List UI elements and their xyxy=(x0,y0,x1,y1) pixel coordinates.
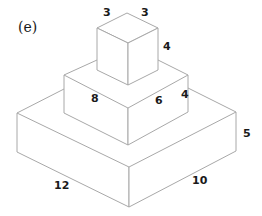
middle-box-left-face xyxy=(64,75,128,145)
middle-box-right-face xyxy=(128,75,188,145)
top-cube-right-dim: 3 xyxy=(141,6,149,19)
stacked-prisms-diagram: (e) 3 3 4 8 6 4 12 10 5 xyxy=(0,0,262,216)
top-cube-height-dim: 4 xyxy=(163,40,171,53)
bottom-box-back-left-edge xyxy=(17,89,64,113)
bottom-box xyxy=(17,88,236,207)
top-cube-left-dim: 3 xyxy=(103,6,111,19)
middle-box-back-left-edge xyxy=(64,60,97,75)
panel-label: (e) xyxy=(18,19,37,35)
middle-box-back-right-edge xyxy=(158,60,188,75)
middle-box-height-dim: 4 xyxy=(181,88,189,101)
bottom-box-height-dim: 5 xyxy=(243,127,251,140)
bottom-box-back-right-edge xyxy=(188,88,236,112)
middle-box-right-dim: 6 xyxy=(155,94,163,107)
middle-box-left-dim: 8 xyxy=(91,92,99,105)
bottom-box-left-dim: 12 xyxy=(54,179,69,192)
top-cube xyxy=(97,13,158,85)
bottom-box-right-dim: 10 xyxy=(192,174,208,187)
